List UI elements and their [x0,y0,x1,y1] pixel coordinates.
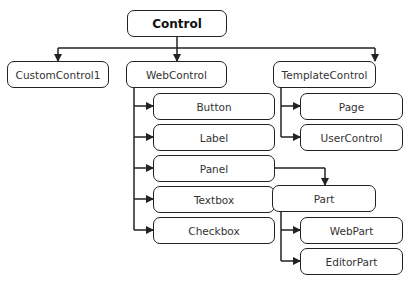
node-editorpart: EditorPart [300,248,403,275]
node-webpart: WebPart [300,217,403,244]
node-label: Label [153,124,275,151]
node-checkbox: Checkbox [153,217,275,244]
node-button: Button [153,93,275,120]
node-page: Page [300,93,403,120]
node-usercontrol: UserControl [300,124,403,151]
node-panel: Panel [153,155,275,182]
node-part: Part [272,185,376,212]
node-customcontrol1: CustomControl1 [7,61,109,88]
node-textbox: Textbox [153,186,275,213]
node-templatecontrol: TemplateControl [273,61,376,88]
node-webcontrol: WebControl [126,61,227,88]
node-control: Control [127,10,227,37]
